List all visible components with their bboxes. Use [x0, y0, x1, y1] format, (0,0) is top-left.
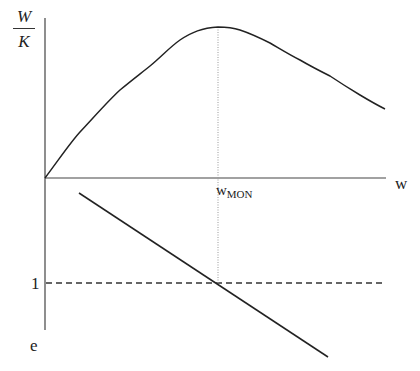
- wk-denominator: K: [13, 33, 35, 50]
- fraction-bar: [13, 28, 35, 29]
- wk-curve: [45, 27, 385, 178]
- w-mon-base: w: [216, 182, 227, 198]
- diagram-canvas: [0, 0, 420, 371]
- w-mon-subscript: MON: [227, 188, 253, 200]
- e-axis-label: e: [30, 337, 38, 354]
- y-axis-wk-label: W K: [13, 8, 35, 50]
- wk-numerator: W: [13, 8, 35, 25]
- w-mon-label: wMON: [216, 183, 253, 198]
- e-one-tick-label: 1: [31, 275, 40, 292]
- e-line: [79, 193, 328, 357]
- x-axis-label: w: [395, 175, 407, 192]
